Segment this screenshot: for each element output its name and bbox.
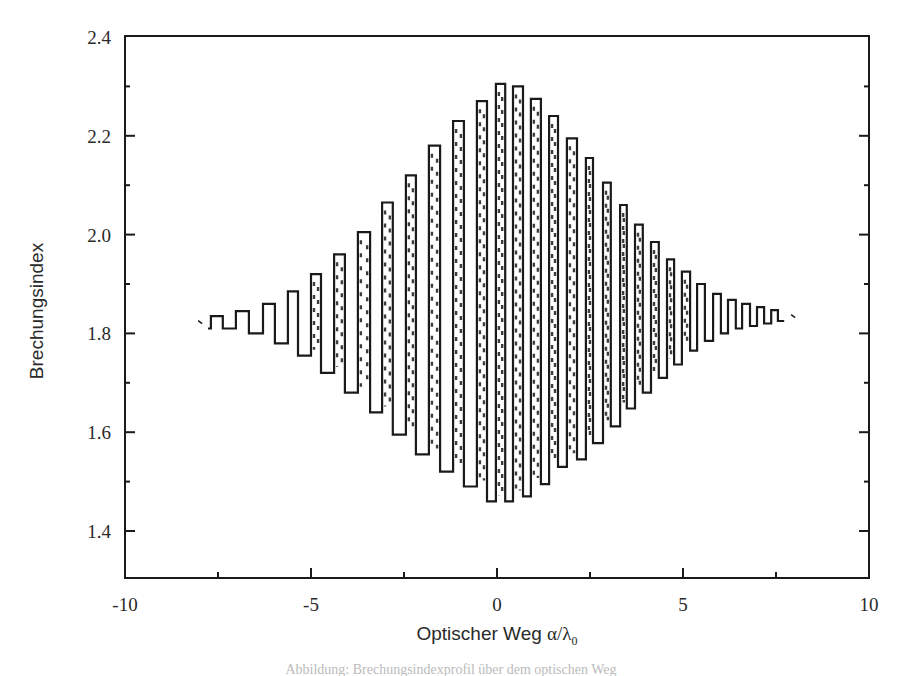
refractive-index-chart: -10-50510 1.41.61.82.02.22.4 Optischer W…: [0, 0, 902, 676]
x-axis-label: Optischer Weg α/λ0: [416, 623, 577, 648]
x-tick-label: 10: [860, 594, 879, 615]
y-tick-label: 1.4: [87, 521, 111, 542]
y-axis-label: Brechungsindex: [26, 242, 47, 379]
x-tick-label: 0: [492, 594, 502, 615]
end-marker: [198, 321, 202, 324]
x-axis: -10-50510: [112, 568, 878, 615]
y-tick-label: 1.8: [87, 323, 111, 344]
x-tick-label: 5: [678, 594, 688, 615]
y-axis: 1.41.61.82.02.22.4: [87, 27, 869, 542]
end-marker: [791, 315, 795, 318]
x-tick-label: -10: [112, 594, 137, 615]
figure-caption: Abbildung: Brechungsindexprofil über dem…: [0, 662, 902, 676]
y-tick-label: 2.2: [87, 126, 111, 147]
step-profile-line: [208, 84, 784, 502]
x-tick-label: -5: [303, 594, 319, 615]
y-tick-label: 2.4: [87, 27, 111, 48]
y-tick-label: 2.0: [87, 225, 111, 246]
data-series: [198, 84, 795, 502]
y-tick-label: 1.6: [87, 422, 111, 443]
